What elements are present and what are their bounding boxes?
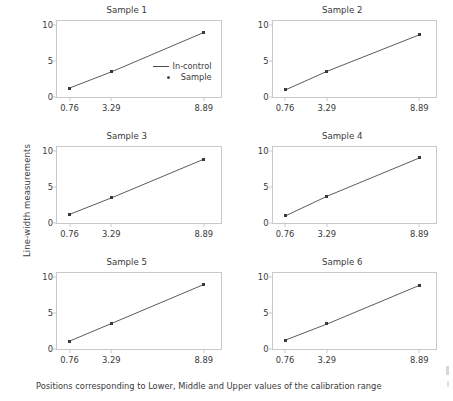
figure-caption: Positions corresponding to Lower, Middle…	[36, 381, 382, 391]
panel-title: Sample 4	[238, 131, 448, 141]
legend-line-swatch-icon	[153, 66, 169, 67]
panel-title: Sample 5	[22, 257, 232, 267]
y-tick-label: 10	[42, 20, 53, 30]
sample-marker	[202, 283, 205, 286]
y-tick-label: 0	[263, 218, 268, 228]
y-tick-label: 5	[263, 308, 268, 318]
x-tick-label: 8.89	[194, 355, 213, 365]
y-tick-label: 0	[48, 218, 53, 228]
figure-small-multiples: Line-width measurements Sample 105100.76…	[0, 0, 453, 401]
series-canvas	[57, 273, 221, 349]
x-tick-mark	[111, 349, 112, 353]
series-canvas	[57, 147, 221, 223]
y-tick-label: 5	[48, 182, 53, 192]
x-tick-label: 0.76	[276, 229, 295, 239]
edge-artifact	[447, 381, 449, 387]
x-tick-label: 0.76	[60, 229, 79, 239]
legend-marker-swatch-icon	[161, 72, 177, 83]
panel-sample-3: Sample 305100.763.298.89	[22, 128, 232, 254]
x-tick-label: 0.76	[276, 103, 295, 113]
x-tick-mark	[69, 97, 70, 101]
x-tick-mark	[419, 223, 420, 227]
panel-sample-6: Sample 605100.763.298.89	[238, 254, 448, 380]
legend-item-sample: Sample	[153, 72, 212, 83]
x-tick-label: 3.29	[102, 355, 121, 365]
plot-area: 05100.763.298.89	[272, 272, 438, 350]
y-tick-label: 0	[263, 344, 268, 354]
y-tick-label: 5	[263, 182, 268, 192]
sample-marker	[418, 156, 421, 159]
x-tick-mark	[326, 349, 327, 353]
sample-marker	[110, 196, 113, 199]
sample-marker	[325, 322, 328, 325]
y-tick-label: 0	[48, 92, 53, 102]
plot-area: 05100.763.298.89	[56, 272, 222, 350]
x-tick-label: 0.76	[60, 355, 79, 365]
sample-marker	[284, 88, 287, 91]
panel-title: Sample 6	[238, 257, 448, 267]
x-tick-label: 3.29	[102, 229, 121, 239]
sample-marker	[110, 70, 113, 73]
plot-area: 05100.763.298.89In-controlSample	[56, 20, 222, 98]
plot-area: 05100.763.298.89	[272, 146, 438, 224]
legend-item-in-control: In-control	[153, 61, 212, 72]
series-canvas	[273, 273, 437, 349]
plot-area: 05100.763.298.89	[272, 20, 438, 98]
panel-grid: Sample 105100.763.298.89In-controlSample…	[22, 2, 447, 380]
x-tick-mark	[285, 349, 286, 353]
x-tick-label: 3.29	[102, 103, 121, 113]
plot-area: 05100.763.298.89	[56, 146, 222, 224]
x-tick-label: 8.89	[410, 355, 429, 365]
in-control-line	[70, 284, 204, 341]
x-tick-label: 8.89	[410, 103, 429, 113]
panel-sample-5: Sample 505100.763.298.89	[22, 254, 232, 380]
x-tick-mark	[203, 97, 204, 101]
x-tick-mark	[203, 349, 204, 353]
series-canvas	[273, 21, 437, 97]
x-tick-mark	[111, 97, 112, 101]
y-tick-label: 5	[48, 56, 53, 66]
sample-marker	[110, 322, 113, 325]
x-tick-mark	[419, 97, 420, 101]
sample-marker	[68, 213, 71, 216]
x-tick-mark	[419, 349, 420, 353]
sample-marker	[418, 284, 421, 287]
legend-label: In-control	[173, 61, 212, 72]
sample-marker	[68, 340, 71, 343]
y-tick-label: 10	[258, 272, 269, 282]
y-tick-label: 0	[263, 92, 268, 102]
edge-artifact	[446, 366, 449, 375]
panel-sample-4: Sample 405100.763.298.89	[238, 128, 448, 254]
panel-title: Sample 2	[238, 5, 448, 15]
sample-marker	[284, 339, 287, 342]
x-tick-label: 8.89	[194, 103, 213, 113]
y-tick-label: 0	[48, 344, 53, 354]
sample-marker	[202, 158, 205, 161]
in-control-line	[285, 158, 419, 216]
sample-marker	[325, 195, 328, 198]
x-tick-mark	[326, 97, 327, 101]
x-tick-label: 8.89	[194, 229, 213, 239]
x-tick-mark	[69, 223, 70, 227]
y-tick-label: 5	[263, 56, 268, 66]
x-tick-mark	[285, 223, 286, 227]
y-tick-label: 10	[258, 146, 269, 156]
x-tick-mark	[69, 349, 70, 353]
legend-dot-icon	[167, 76, 170, 79]
sample-marker	[325, 70, 328, 73]
sample-marker	[202, 31, 205, 34]
x-tick-label: 3.29	[318, 103, 337, 113]
x-tick-label: 3.29	[318, 355, 337, 365]
in-control-line	[70, 159, 204, 214]
panel-sample-1: Sample 105100.763.298.89In-controlSample	[22, 2, 232, 128]
x-tick-mark	[285, 97, 286, 101]
sample-marker	[418, 33, 421, 36]
y-tick-label: 5	[48, 308, 53, 318]
x-tick-mark	[203, 223, 204, 227]
x-tick-mark	[111, 223, 112, 227]
x-tick-label: 0.76	[60, 103, 79, 113]
sample-marker	[68, 87, 71, 90]
y-tick-label: 10	[258, 20, 269, 30]
legend: In-controlSample	[153, 61, 212, 83]
series-canvas	[273, 147, 437, 223]
